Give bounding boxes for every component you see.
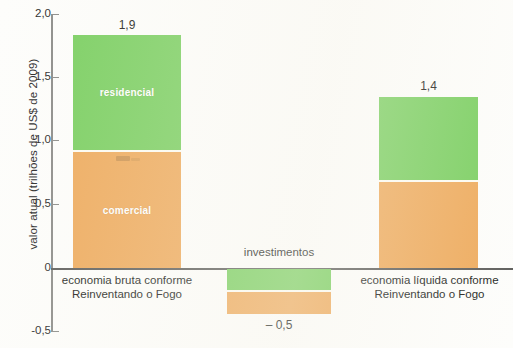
bar-economia-liquida[interactable] — [379, 97, 478, 268]
chart-container: valor atual (trilhões de US$ de 2009) 2,… — [0, 0, 513, 348]
bar-investimentos[interactable] — [227, 269, 331, 314]
bar-annotation-investimentos: investimentos — [227, 246, 331, 258]
plot-area: 1,9 residencial comercial economia bruta… — [0, 0, 513, 348]
x-category-line-2: Reinventando o Fogo — [47, 287, 207, 301]
x-category-label-3: economia líquida conforme Reinventando o… — [348, 273, 511, 301]
x-category-line-1: economia bruta conforme — [47, 273, 207, 287]
x-category-line-1: economia líquida conforme — [348, 273, 511, 287]
bar-segment-label-residencial: residencial — [73, 87, 181, 98]
bar-segment-residencial-2[interactable] — [227, 269, 331, 291]
bar-segment-label-comercial: comercial — [73, 205, 181, 216]
bar-segment-comercial-3[interactable] — [379, 182, 478, 268]
x-category-line-2: Reinventando o Fogo — [348, 287, 511, 301]
bar-value-label-1: 1,9 — [73, 18, 181, 32]
bar-segment-residencial-3[interactable] — [379, 97, 478, 182]
bar-economia-bruta[interactable]: residencial comercial — [73, 35, 181, 268]
x-category-label-1: economia bruta conforme Reinventando o F… — [47, 273, 207, 301]
bar-value-label-3: 1,4 — [379, 79, 478, 93]
bar-segment-comercial-2[interactable] — [227, 292, 331, 314]
bar-value-label-2: – 0,5 — [227, 318, 331, 332]
